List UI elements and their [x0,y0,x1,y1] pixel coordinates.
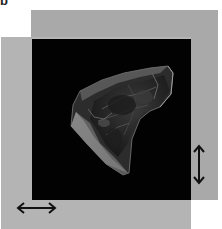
render-viewport [32,39,191,200]
rendered-specimen [32,39,191,200]
panel-label: b [0,0,8,7]
vertical-double-arrow-icon [191,144,207,185]
horizontal-double-arrow-icon [16,200,57,216]
